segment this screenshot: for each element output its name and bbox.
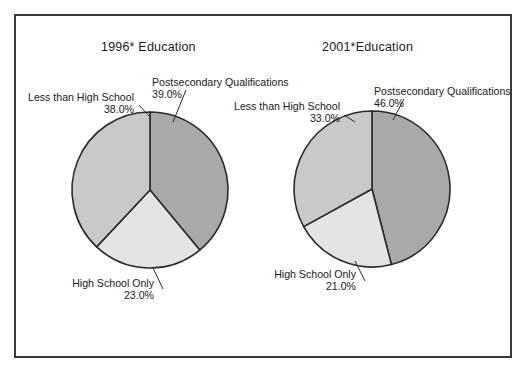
label-1996-less-than-high-school: Less than High School 38.0% <box>20 91 134 116</box>
label-2001-high-school-only-value: 21.0% <box>258 280 356 292</box>
figure-frame <box>14 14 512 358</box>
label-1996-high-school-only: High School Only 23.0% <box>60 277 154 302</box>
label-1996-high-school-only-value: 23.0% <box>60 289 154 301</box>
label-2001-less-than-high-school-name: Less than High School <box>234 100 340 112</box>
chart-title-2001: 2001*Education <box>322 40 413 54</box>
label-2001-less-than-high-school: Less than High School 33.0% <box>224 100 340 125</box>
chart-title-1996: 1996* Education <box>101 40 196 54</box>
label-1996-less-than-high-school-value: 38.0% <box>20 103 134 115</box>
label-2001-postsecondary-name: Postsecondary Qualifications <box>374 85 511 97</box>
label-1996-high-school-only-name: High School Only <box>72 277 154 289</box>
label-2001-high-school-only: High School Only 21.0% <box>258 268 356 293</box>
label-2001-less-than-high-school-value: 33.0% <box>224 112 340 124</box>
label-2001-high-school-only-name: High School Only <box>274 268 356 280</box>
label-1996-postsecondary-value: 39.0% <box>152 88 289 100</box>
label-1996-postsecondary-name: Postsecondary Qualifications <box>152 76 289 88</box>
label-1996-postsecondary: Postsecondary Qualifications 39.0% <box>152 76 289 101</box>
label-2001-postsecondary-value: 46.0% <box>374 97 511 109</box>
label-1996-less-than-high-school-name: Less than High School <box>28 91 134 103</box>
label-2001-postsecondary: Postsecondary Qualifications 46.0% <box>374 85 511 110</box>
